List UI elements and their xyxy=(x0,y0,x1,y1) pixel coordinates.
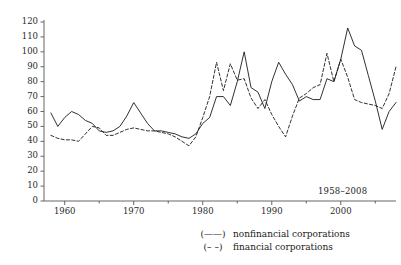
y-tick-60: 60 xyxy=(8,106,38,116)
y-tick-40: 40 xyxy=(8,135,38,145)
y-tick-10: 10 xyxy=(8,180,38,190)
y-tick-30: 30 xyxy=(8,150,38,160)
legend-item-financial: (– –) financial corporations xyxy=(196,241,350,254)
y-tick-0: 0 xyxy=(8,195,38,205)
legend-key-dashed-line: (– –) xyxy=(196,241,230,254)
chart-canvas xyxy=(0,0,401,265)
chart-figure: 0102030405060708090100110120 19601970198… xyxy=(0,0,401,265)
chart-legend: (——) nonfinancial corporations (– –) fin… xyxy=(196,228,350,254)
x-tick-2000: 2000 xyxy=(321,206,361,216)
legend-label-nonfinancial: nonfinancial corporations xyxy=(233,228,350,241)
x-tick-1970: 1970 xyxy=(114,206,154,216)
series-line-financial xyxy=(51,53,396,145)
legend-key-solid-line: (——) xyxy=(196,228,230,241)
y-tick-120: 120 xyxy=(8,16,38,26)
y-tick-100: 100 xyxy=(8,46,38,56)
x-tick-1960: 1960 xyxy=(45,206,85,216)
y-tick-20: 20 xyxy=(8,165,38,175)
y-tick-110: 110 xyxy=(8,31,38,41)
x-tick-1980: 1980 xyxy=(183,206,223,216)
y-tick-90: 90 xyxy=(8,61,38,71)
x-tick-1990: 1990 xyxy=(252,206,292,216)
y-tick-80: 80 xyxy=(8,76,38,86)
legend-label-financial: financial corporations xyxy=(233,241,333,254)
series-line-nonfinancial xyxy=(51,28,396,138)
y-tick-70: 70 xyxy=(8,91,38,101)
date-range-annotation: 1958–2008 xyxy=(318,186,367,196)
y-tick-50: 50 xyxy=(8,120,38,130)
legend-item-nonfinancial: (——) nonfinancial corporations xyxy=(196,228,350,241)
